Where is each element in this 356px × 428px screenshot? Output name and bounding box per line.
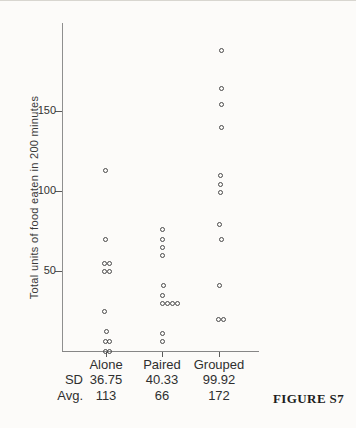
data-point-paired (160, 227, 165, 232)
category-label-grouped: Grouped (187, 357, 251, 372)
data-point-grouped (217, 222, 222, 227)
data-point-grouped (217, 283, 222, 288)
data-point-alone (102, 269, 107, 274)
data-point-grouped (218, 182, 223, 187)
data-point-paired (161, 283, 166, 288)
data-point-grouped (219, 48, 224, 53)
category-label-paired: Paired (130, 357, 194, 372)
data-point-alone (107, 261, 112, 266)
data-point-alone (107, 269, 112, 274)
x-axis-line (62, 351, 259, 352)
data-point-paired (160, 301, 165, 306)
data-point-alone (103, 168, 108, 173)
data-point-paired (160, 253, 165, 258)
y-axis-title: Total units of food eaten in 200 minutes (28, 33, 41, 363)
data-point-grouped (219, 102, 224, 107)
data-point-grouped (219, 86, 224, 91)
y-tick-label: 50 (26, 264, 56, 276)
figure-panel: Total units of food eaten in 200 minutes… (0, 0, 356, 428)
data-point-paired (160, 339, 165, 344)
data-point-paired (160, 245, 165, 250)
stats-value: 172 (184, 388, 254, 403)
y-tick-mark (55, 191, 62, 192)
y-tick-label: 100 (26, 184, 56, 196)
data-point-grouped (219, 237, 224, 242)
data-point-paired (160, 293, 165, 298)
y-tick-mark (55, 271, 62, 272)
data-point-grouped (221, 317, 226, 322)
data-point-paired (160, 331, 165, 336)
category-label-alone: Alone (74, 357, 138, 372)
data-point-alone (104, 329, 109, 334)
y-tick-mark (55, 111, 62, 112)
data-point-grouped (218, 190, 223, 195)
y-axis-line (62, 23, 63, 352)
data-point-alone (102, 309, 107, 314)
data-point-paired (170, 301, 175, 306)
data-point-grouped (219, 125, 224, 130)
data-point-alone (103, 237, 108, 242)
data-point-alone (102, 261, 107, 266)
scan-artifact-line (0, 0, 356, 1)
data-point-grouped (218, 173, 223, 178)
data-point-paired (165, 301, 170, 306)
figure-caption: FIGURE S7 (273, 391, 344, 407)
stats-value: 99.92 (184, 372, 254, 387)
data-point-alone (107, 339, 112, 344)
y-tick-label: 150 (26, 104, 56, 116)
data-point-paired (175, 301, 180, 306)
data-point-alone (107, 349, 112, 354)
data-point-paired (160, 237, 165, 242)
data-point-grouped (216, 317, 221, 322)
